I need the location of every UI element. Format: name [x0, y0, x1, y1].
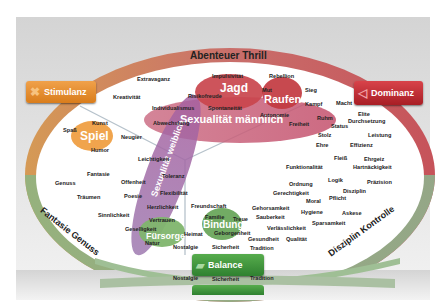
word: Individualismus	[152, 106, 194, 112]
word: Durchsetzung	[348, 119, 385, 125]
word: Verlässlichkeit	[267, 226, 306, 232]
module-spiel[interactable]: Spiel	[80, 130, 109, 142]
word: Pflicht	[329, 196, 346, 202]
word: Leichtigkeit	[138, 157, 169, 163]
word: Toleranz	[162, 174, 185, 180]
word: Mut	[262, 88, 272, 94]
word: Logik	[328, 178, 343, 184]
word: Askese	[342, 211, 362, 217]
word: Poesie	[124, 194, 142, 200]
word: Hygiene	[301, 210, 323, 216]
word: Vertrauen	[149, 218, 175, 224]
stimulanz-button[interactable]: ✖ Stimulanz	[26, 81, 96, 103]
word: Rebellion	[269, 74, 294, 80]
word: Sparsamkeit	[312, 221, 345, 227]
word: Offenheit	[121, 180, 146, 186]
word: Geselligkeit	[125, 227, 156, 233]
word: Effizienz	[350, 143, 373, 149]
word: Gesundheit	[248, 237, 279, 243]
word: Sauberkeit	[256, 215, 285, 221]
word: Geborgenheit	[214, 231, 250, 237]
word: Tradition	[250, 276, 274, 282]
word: Fantasie	[87, 172, 110, 178]
word: Extravaganz	[137, 77, 170, 83]
word: Impulsivität	[212, 74, 243, 80]
word: Treue	[233, 217, 248, 223]
word: Disziplin	[343, 189, 366, 195]
word: Kampf	[305, 102, 322, 108]
word: Funktionalität	[286, 165, 323, 171]
balance-button[interactable]: ▰ Balance	[192, 254, 264, 276]
word: Stolz	[318, 133, 331, 139]
balance-button-shadow	[192, 285, 264, 295]
word: Hartnäckigkeit	[353, 165, 392, 171]
word: Ruhm	[317, 116, 333, 122]
word: Sicherheit	[212, 245, 239, 251]
word: Ehrgeiz	[364, 157, 384, 163]
word: Nostalgie	[173, 245, 198, 251]
word: Sicherheit	[212, 277, 239, 283]
word: Sieg	[305, 88, 317, 94]
word: Macht	[336, 101, 352, 107]
word: Abwechslung	[153, 121, 189, 127]
word: Elite	[358, 112, 370, 118]
word: Freundschaft	[191, 204, 226, 210]
word: Neugier	[121, 135, 142, 141]
ring-label-top: Abenteuer Thrill	[190, 51, 267, 61]
arrow-left-icon: ◁	[358, 86, 367, 100]
word: Heimat	[184, 232, 203, 238]
word: Genuss	[55, 181, 76, 187]
module-jagd[interactable]: Jagd	[220, 82, 248, 94]
word: Sinnlichkeit	[98, 213, 129, 219]
word: Spaß	[63, 128, 77, 134]
word: Träumen	[77, 195, 100, 201]
word: Gerechtigkeit	[273, 191, 309, 197]
word: Natur	[145, 241, 160, 247]
word: Qualität	[286, 237, 307, 243]
word: Präzision	[367, 180, 392, 186]
word: Nostalgie	[173, 276, 198, 282]
word: Ehre	[316, 143, 328, 149]
word: Freiheit	[289, 122, 309, 128]
dominanz-label: Dominanz	[371, 88, 414, 98]
word: Risikofreude	[188, 94, 222, 100]
word: Kreativität	[113, 95, 140, 101]
word: Tradition	[250, 246, 274, 252]
balance-label: Balance	[208, 260, 243, 270]
stimulanz-label: Stimulanz	[44, 87, 87, 97]
dominanz-button[interactable]: ◁ Dominanz	[354, 81, 423, 105]
word: Kunst	[92, 121, 108, 127]
word: Spontaneität	[208, 106, 242, 112]
word: Flexibilität	[160, 191, 188, 197]
puzzle-icon: ✖	[30, 85, 40, 99]
balance-icon: ▰	[196, 259, 204, 272]
module-raufen[interactable]: Raufen	[264, 94, 301, 105]
word: Gehorsamkeit	[252, 206, 289, 212]
word: Leistung	[368, 133, 391, 139]
word: Status	[331, 124, 348, 130]
word: Ordnung	[289, 182, 313, 188]
word: Moral	[306, 199, 321, 205]
word: Familie	[205, 215, 224, 221]
word: Autonomie	[260, 113, 289, 119]
word: Fleiß	[334, 156, 347, 162]
word: Herzlichkeit	[147, 205, 178, 211]
word: Humor	[91, 148, 109, 154]
